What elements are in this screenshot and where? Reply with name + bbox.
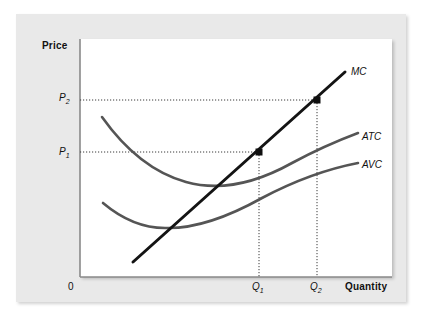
economics-cost-curve-figure: Price Quantity 0 P2 P1 Q1 Q2 MC ATC AVC — [0, 0, 422, 316]
x-tick-q2: Q2 — [310, 281, 322, 294]
y-tick-p2-base: P — [59, 92, 66, 103]
x-tick-q2-subscript: 2 — [318, 287, 322, 294]
marker-q2-p2 — [314, 97, 321, 104]
avc-curve-label: AVC — [362, 159, 382, 170]
origin-label: 0 — [68, 281, 74, 292]
x-tick-q1-base: Q — [252, 281, 260, 292]
marker-q1-p1 — [256, 149, 263, 156]
atc-curve-label: ATC — [362, 131, 381, 142]
y-tick-p1: P1 — [59, 146, 70, 159]
x-tick-q1-subscript: 1 — [260, 287, 264, 294]
mc-curve-label: MC — [351, 66, 367, 77]
x-tick-q1: Q1 — [252, 281, 264, 294]
y-tick-p2-subscript: 2 — [66, 98, 70, 105]
y-tick-p2: P2 — [59, 92, 70, 105]
x-tick-q2-base: Q — [310, 281, 318, 292]
x-axis-title: Quantity — [345, 281, 387, 292]
y-tick-p1-subscript: 1 — [66, 152, 70, 159]
y-axis-title: Price — [42, 40, 67, 51]
y-tick-p1-base: P — [59, 146, 66, 157]
